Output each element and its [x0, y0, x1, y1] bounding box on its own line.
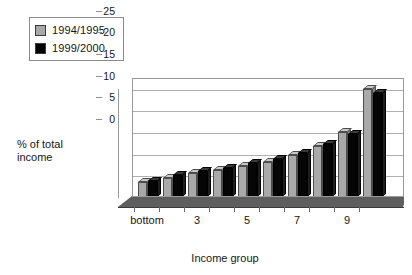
- bar-face: [188, 173, 197, 197]
- x-tick-label-7: 7: [294, 214, 300, 226]
- x-tick-mark: [234, 207, 235, 212]
- y-tick-label-10: 10: [75, 71, 115, 81]
- bar-face: [363, 89, 372, 197]
- bar-9-1994-1995: [338, 132, 347, 197]
- x-tick-mark: [309, 207, 310, 212]
- bar-top-1994-1995: [363, 89, 372, 197]
- bar-group: [263, 78, 288, 197]
- bar-6-1999-2000: [273, 159, 282, 197]
- bar-face: [313, 146, 322, 197]
- y-tick-label-0: 0: [75, 114, 115, 124]
- bar-side-face: [357, 131, 361, 197]
- plot-floor-top-edge: [132, 196, 404, 197]
- y-tick-mark-15: [96, 54, 102, 55]
- y-tick-mark-25: [96, 11, 102, 12]
- bar-bottom-1994-1995: [138, 182, 147, 197]
- x-tick-mark: [334, 207, 335, 212]
- bar-side-face: [332, 141, 336, 197]
- bar-group: [213, 78, 238, 197]
- bar-4-1999-2000: [223, 168, 232, 197]
- bar-group: [363, 78, 388, 197]
- x-tick-mark: [134, 207, 135, 212]
- y-axis-title-line-1: % of total: [17, 138, 97, 151]
- y-tick-mark-20: [96, 32, 102, 33]
- y-tick-label-5: 5: [75, 92, 115, 102]
- y-tick-label-25: 25: [75, 6, 115, 16]
- bar-face: [338, 132, 347, 197]
- bar-face: [263, 162, 272, 197]
- chart-figure: 1994/1995 1999/2000 % of total income 05…: [0, 0, 412, 275]
- y-tick-label-15: 15: [75, 49, 115, 59]
- bar-7-1999-2000: [298, 153, 307, 197]
- bar-7-1994-1995: [288, 155, 297, 197]
- bar-face: [138, 182, 147, 197]
- y-tick-mark-5: [96, 97, 102, 98]
- bar-side-face: [307, 150, 311, 197]
- bar-4-1994-1995: [213, 170, 222, 197]
- x-tick-mark: [184, 207, 185, 212]
- x-tick-label-bottom: bottom: [130, 214, 164, 226]
- bar-side-face: [282, 156, 286, 197]
- bar-group: [188, 78, 213, 197]
- bar-side-face: [182, 172, 186, 197]
- x-tick-mark: [159, 207, 160, 212]
- bar-3-1994-1995: [188, 173, 197, 197]
- bar-face: [288, 155, 297, 197]
- bar-group: [288, 78, 313, 197]
- x-axis-title-text: Income group: [191, 252, 258, 264]
- plot-left-wall-edge: [118, 89, 119, 198]
- bar-face: [373, 93, 382, 197]
- bar-side-face: [207, 168, 211, 197]
- bar-group: [338, 78, 363, 197]
- bar-face: [163, 178, 172, 197]
- bar-side-face: [232, 164, 236, 197]
- bar-5-1999-2000: [248, 163, 257, 197]
- x-tick-label-5: 5: [244, 214, 250, 226]
- bar-group: [238, 78, 263, 197]
- bar-face: [273, 159, 282, 197]
- bar-face: [173, 175, 182, 197]
- y-axis: 0510152025: [0, 0, 118, 130]
- x-tick-mark: [209, 207, 210, 212]
- y-axis-title-line-2: income: [17, 151, 97, 164]
- bar-8-1999-2000: [323, 144, 332, 197]
- bar-2-1999-2000: [173, 175, 182, 197]
- x-tick-mark: [359, 207, 360, 212]
- bar-group: [163, 78, 188, 197]
- bar-face: [298, 153, 307, 197]
- bar-face: [223, 168, 232, 197]
- bar-9-1999-2000: [348, 134, 357, 197]
- bar-2-1994-1995: [163, 178, 172, 197]
- bar-side-face: [257, 160, 261, 197]
- bar-group: [313, 78, 338, 197]
- y-tick-label-20: 20: [75, 27, 115, 37]
- x-tick-label-9: 9: [344, 214, 350, 226]
- plot-floor: [118, 196, 404, 208]
- x-tick-mark: [284, 207, 285, 212]
- bar-side-face: [382, 90, 386, 197]
- bar-8-1994-1995: [313, 146, 322, 197]
- bar-face: [238, 166, 247, 197]
- plot-left-wall: [118, 78, 133, 198]
- bar-top-1999-2000: [373, 93, 382, 197]
- bar-5-1994-1995: [238, 166, 247, 197]
- bar-face: [148, 181, 157, 197]
- x-axis-title: Income group: [0, 252, 412, 264]
- bar-face: [198, 171, 207, 197]
- bar-face: [248, 163, 257, 197]
- plot-floor-slab: [118, 196, 404, 207]
- bar-face: [348, 134, 357, 197]
- plot-floor-front-edge: [118, 207, 404, 208]
- y-axis-title: % of total income: [17, 138, 97, 164]
- bar-group: [138, 78, 163, 197]
- bar-6-1994-1995: [263, 162, 272, 197]
- bar-face: [213, 170, 222, 197]
- bar-bottom-1999-2000: [148, 181, 157, 197]
- x-tick-mark: [259, 207, 260, 212]
- y-tick-mark-10: [96, 76, 102, 77]
- y-tick-mark-0: [96, 119, 102, 120]
- bar-face: [323, 144, 332, 197]
- x-tick-label-3: 3: [194, 214, 200, 226]
- bar-3-1999-2000: [198, 171, 207, 197]
- plot-area: [118, 78, 404, 208]
